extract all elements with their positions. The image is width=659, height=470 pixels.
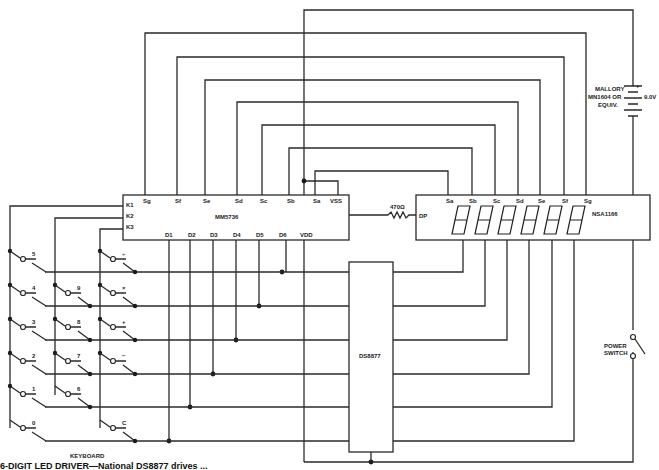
key-label-minus: − [122,353,126,359]
ds8877-chip: DS8877 [349,262,393,464]
pin-d3: D3 [210,232,218,238]
nsa1166-display: DP Sa Sb Sc Sd Se Sf Sg NSA1166 [416,195,650,240]
keyboard-matrix: 5 4 3 2 1 0 9 8 7 6 ÷ × + − C KEYBOARD [8,206,137,459]
dp-label: DP [419,213,427,219]
key-label-6: 6 [77,386,81,392]
pin-k3: K3 [126,224,134,230]
key-label-divide: ÷ [122,251,126,257]
pin-sa: Sa [313,198,321,204]
pin-sc: Sc [260,198,268,204]
disp-pin-sb: Sb [469,198,477,204]
schematic: MM5736 Sg Sf Se Sd Sc Sb Sa VSS K1 K2 K3… [0,0,659,470]
pin-k2: K2 [126,213,134,219]
pin-d5: D5 [256,232,264,238]
digit-lines [393,240,574,441]
pin-d2: D2 [188,232,196,238]
mm5736-chip: MM5736 Sg Sf Se Sd Sc Sb Sa VSS K1 K2 K3… [123,195,349,240]
key-label-multiply: × [122,285,126,291]
disp-pin-se: Se [538,198,546,204]
key-label-9: 9 [77,285,81,291]
pin-sb: Sb [287,198,295,204]
key-label-clear: C [122,420,127,426]
key-label-1: 1 [32,386,36,392]
battery: + 9.0V MALLORY MN1604 OR EQUIV. [588,83,656,122]
pin-d6: D6 [279,232,287,238]
mm5736-label: MM5736 [215,214,239,220]
key-label-5: 5 [32,251,36,257]
key-switches-col1 [8,249,46,441]
power-switch-label-2: SWITCH [604,350,628,356]
pin-sg: Sg [143,198,151,204]
disp-pin-sd: Sd [516,198,524,204]
keyboard-label: KEYBOARD [70,453,105,459]
segment-bus [145,33,586,215]
battery-voltage: 9.0V [644,94,656,100]
key-label-4: 4 [32,285,36,291]
disp-pin-sg: Sg [584,198,592,204]
resistor-label: 470Ω [390,204,405,210]
nsa1166-label: NSA1166 [592,211,618,217]
pin-vdd: VDD [300,232,313,238]
key-label-0: 0 [32,420,36,426]
key-label-2: 2 [32,353,36,359]
pin-d1: D1 [165,232,173,238]
pin-vss: VSS [330,198,342,204]
key-switches-col3 [98,249,137,443]
battery-label-3: EQUIV. [598,102,618,108]
key-label-7: 7 [77,353,81,359]
power-switch: POWER SWITCH [604,335,645,359]
battery-label-1: MALLORY [595,86,624,92]
pin-d4: D4 [233,232,241,238]
key-switches-col2 [53,283,92,409]
key-label-8: 8 [77,319,81,325]
disp-pin-sa: Sa [446,198,454,204]
battery-plus: + [636,83,640,89]
disp-pin-sf: Sf [562,198,569,204]
key-label-3: 3 [32,319,36,325]
resistor: 470Ω [388,204,416,218]
battery-label-2: MN1604 OR [588,94,622,100]
pin-sf: Sf [175,198,182,204]
power-switch-label-1: POWER [604,343,627,349]
figure-caption: 6-DIGIT LED DRIVER—National DS8877 drive… [0,461,208,470]
key-label-plus: + [122,319,126,325]
pin-k1: K1 [126,202,134,208]
ds8877-label: DS8877 [359,353,381,359]
pin-se: Se [203,198,211,204]
disp-pin-sc: Sc [493,198,501,204]
pin-sd: Sd [235,198,243,204]
